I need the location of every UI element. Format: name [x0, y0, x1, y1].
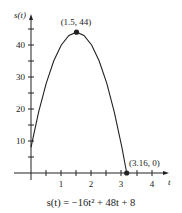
function-formula: s(t) = −16t² + 48t + 8	[0, 197, 182, 208]
y-axis-label: s(t)	[14, 10, 26, 20]
y-tick-label: 10	[16, 136, 26, 146]
chart-canvas: 1 2 3 4 10 20 30 40 s(t) t (1.5, 44) (3.…	[0, 0, 182, 213]
vertex-point	[74, 30, 79, 35]
y-tick-label: 30	[16, 72, 26, 82]
x-tick-label: 4	[150, 179, 155, 189]
x-tick-label: 1	[59, 179, 64, 189]
y-tick-label: 40	[16, 40, 26, 50]
x-tick-label: 3	[119, 179, 124, 189]
parabola-curve	[31, 32, 127, 173]
x-axis-arrow-icon	[163, 171, 169, 175]
x-axis-label: t	[168, 177, 171, 187]
y-tick-label: 20	[16, 104, 26, 114]
root-point	[124, 170, 129, 175]
x-tick-label: 2	[89, 179, 94, 189]
vertex-label: (1.5, 44)	[61, 17, 92, 27]
y-axis-arrow-icon	[29, 14, 33, 20]
root-label: (3.16, 0)	[129, 158, 160, 168]
